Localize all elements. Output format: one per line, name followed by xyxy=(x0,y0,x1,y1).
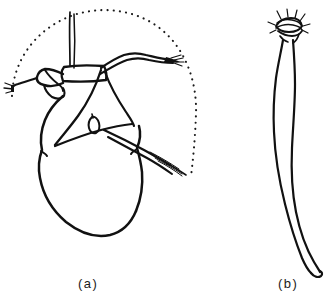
panel-a-drawing xyxy=(4,10,196,236)
left-bristle-tuft xyxy=(4,83,14,93)
central-loop-detail xyxy=(89,114,100,133)
upper-right-setae xyxy=(164,55,184,66)
abdomen-outline-left xyxy=(39,96,136,236)
abdomen-outline-right xyxy=(136,126,142,211)
caption-b: (b) xyxy=(278,276,298,291)
left-appendage-lower xyxy=(12,78,37,89)
annulated-collar xyxy=(276,18,302,43)
figure-svg xyxy=(0,0,326,304)
figure-plate: (a) (b) xyxy=(0,0,326,304)
panel-b-drawing xyxy=(268,9,322,277)
distal-hook xyxy=(311,271,322,277)
scutum-right-edge xyxy=(105,72,134,126)
shaft-right-margin xyxy=(292,40,320,272)
upper-right-appendage-top xyxy=(101,54,171,69)
dotted-arc xyxy=(12,10,196,176)
collar-bristles xyxy=(268,9,310,33)
dorsal-seta-edge xyxy=(74,14,75,68)
caption-a: (a) xyxy=(78,276,98,291)
